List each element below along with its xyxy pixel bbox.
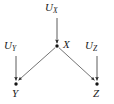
node-label-uy-subscript: Y (12, 44, 16, 53)
node-label-ux: UX (45, 2, 58, 15)
node-label-uz-subscript: Z (93, 44, 97, 53)
node-label-z: Z (93, 88, 99, 99)
node-label-y: Y (12, 88, 18, 99)
node-dot-x (55, 44, 58, 47)
node-label-x: X (63, 39, 70, 50)
node-label-uy: UY (4, 40, 16, 53)
node-label-ux-base: U (45, 1, 53, 13)
node-dot-z (95, 82, 98, 85)
node-label-ux-subscript: X (53, 6, 58, 15)
node-dot-y (14, 82, 17, 85)
node-label-uz-base: U (85, 39, 93, 51)
node-label-uz: UZ (85, 40, 97, 53)
causal-diagram-figure: UX UY UZ X Y Z (0, 0, 114, 104)
node-label-uy-base: U (4, 39, 12, 51)
edge-x-to-y (19, 48, 56, 81)
